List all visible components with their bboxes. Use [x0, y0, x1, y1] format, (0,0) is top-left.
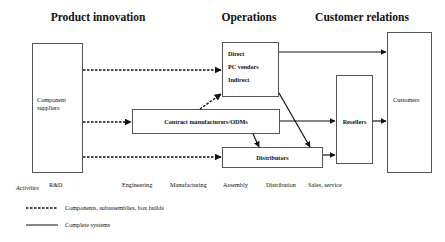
activity-distribution: Distribution [266, 181, 296, 188]
edge-contract-to-pc-vendors [200, 94, 221, 109]
activity-sales-service: Sales, service [308, 181, 342, 188]
legend-solid-label: Complete systems [65, 221, 110, 228]
activity-manufacturing: Manufacturing [170, 181, 207, 188]
edge-contract-to-distributors [253, 134, 259, 147]
activity-rnd: R&D [49, 181, 62, 188]
activity-engineering: Engineering [122, 181, 152, 188]
legend-dashed-label: Components, subassemblies, box builds [65, 204, 164, 211]
activity-assembly: Assembly [223, 181, 248, 188]
activities-label: Activities [16, 184, 39, 191]
edge-pc-vendors-to-distributors [279, 93, 310, 147]
